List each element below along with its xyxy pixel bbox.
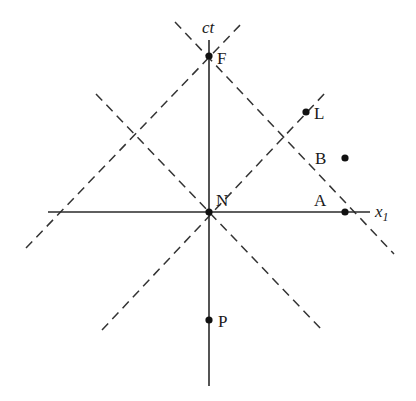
x1-axis-label: x1	[374, 202, 389, 224]
dashed-light-lines	[26, 22, 394, 330]
ct-axis-label: ct	[202, 18, 216, 37]
point-l	[302, 108, 309, 115]
point-f	[205, 52, 212, 59]
point-b	[341, 154, 348, 161]
point-label-n: N	[216, 191, 228, 210]
point-a	[341, 208, 348, 215]
point-label-f: F	[217, 49, 226, 68]
point-label-p: P	[218, 312, 227, 331]
point-label-a: A	[314, 191, 327, 210]
point-p	[205, 316, 212, 323]
light-cone-N-up-right	[102, 92, 326, 330]
point-label-l: L	[314, 104, 324, 123]
point-n	[205, 208, 212, 215]
point-label-b: B	[315, 149, 326, 168]
event-points: FNPABL	[205, 49, 348, 331]
spacetime-diagram: ct x1 FNPABL	[0, 0, 416, 401]
